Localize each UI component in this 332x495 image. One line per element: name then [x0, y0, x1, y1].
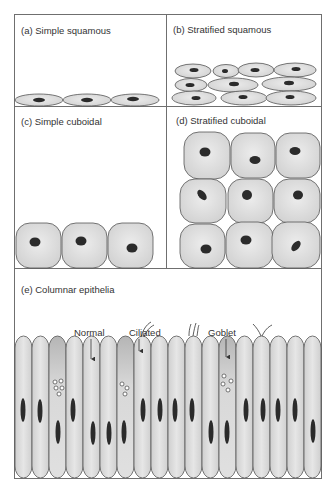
goblet-label: Goblet — [208, 327, 236, 338]
ciliated-label: Ciliated — [129, 327, 161, 338]
panel-a-label: (a) Simple squamous — [21, 25, 111, 36]
columnar-cells — [15, 336, 321, 478]
simple-squamous-cells — [15, 94, 159, 106]
epithelia-figure: (a) Simple squamous (b) Stratified squam… — [0, 0, 332, 495]
panel-d-label: (d) Stratified cuboidal — [176, 115, 266, 126]
panel-c-label: (c) Simple cuboidal — [21, 116, 102, 127]
normal-label: Normal — [74, 327, 105, 338]
panel-b-label: (b) Stratified squamous — [173, 24, 271, 35]
panel-e-label: (e) Columnar epithelia — [21, 284, 115, 295]
